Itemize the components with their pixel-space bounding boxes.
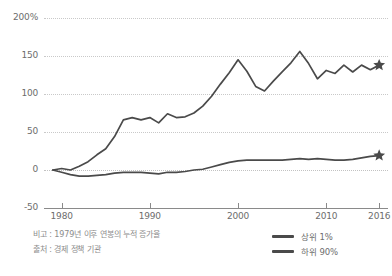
- x-tick-label: 1990: [139, 211, 161, 221]
- footnote-note: 비고 : 1979년 이후 연봉의 누적 증가율: [33, 227, 160, 242]
- y-tick-label: 0: [32, 164, 38, 174]
- x-axis-line: [44, 208, 388, 209]
- legend-item-1[interactable]: 상위 1%: [272, 230, 338, 242]
- x-tick-label: 2000: [227, 211, 249, 221]
- legend-swatch-icon: [272, 250, 294, 253]
- y-tick-label: 100: [21, 88, 38, 98]
- plot-area: [44, 18, 388, 208]
- x-tick-label: 1980: [51, 211, 73, 221]
- y-tick-label: 200%: [13, 12, 38, 22]
- footnote-source: 출처 : 경제 정책 기관: [33, 242, 160, 257]
- y-tick-label: -50: [24, 202, 38, 212]
- x-tick-1990: [150, 203, 151, 209]
- legend-item-2[interactable]: 하위 90%: [272, 245, 338, 257]
- x-tick-1980: [62, 203, 63, 209]
- chart-legend: 상위 1%하위 90%: [272, 230, 338, 260]
- footnotes: 비고 : 1979년 이후 연봉의 누적 증가율 출처 : 경제 정책 기관: [33, 227, 160, 257]
- x-tick-label: 2016: [368, 211, 390, 221]
- y-tick-label: 150: [21, 50, 38, 60]
- legend-swatch-icon: [272, 235, 294, 238]
- y-tick-label: 50: [27, 126, 38, 136]
- series-layer: [44, 18, 388, 208]
- x-tick-2016: [379, 203, 380, 209]
- legend-label: 하위 90%: [301, 245, 338, 257]
- series-line-1: [53, 51, 379, 170]
- legend-label: 상위 1%: [301, 230, 333, 242]
- series-end-star-icon-2: [373, 149, 385, 160]
- x-tick-2000: [238, 203, 239, 209]
- series-line-2: [53, 156, 379, 177]
- x-tick-2010: [326, 203, 327, 209]
- chart-container: 200%150100500-50 비고 : 1979년 이후 연봉의 누적 증가…: [0, 0, 392, 276]
- series-end-star-icon-1: [373, 59, 385, 70]
- x-tick-label: 2010: [315, 211, 337, 221]
